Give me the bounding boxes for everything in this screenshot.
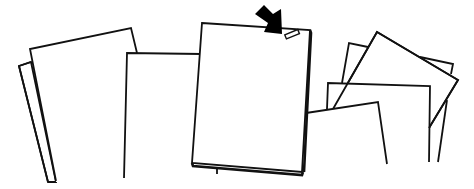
right-front-sheet: [306, 102, 387, 164]
middle-left-sheet: [124, 53, 202, 178]
center-document: [192, 23, 311, 175]
illustration-canvas: Stack of loose paper sheets with one hig…: [0, 0, 474, 189]
paper-stack-drawing: [0, 0, 474, 189]
